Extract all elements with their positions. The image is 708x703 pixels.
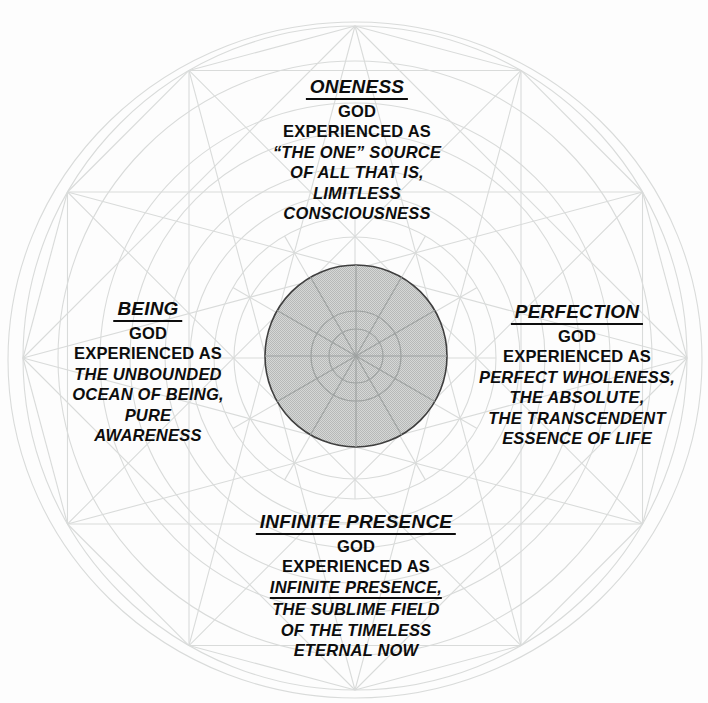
- label-line: INFINITE PRESENCE,: [256, 577, 456, 599]
- label-line: EXPERIENCED AS: [479, 346, 675, 366]
- disc-inner-geometry: [261, 261, 451, 451]
- being-text-block: BEING GOD EXPERIENCED AS THE UNBOUNDED O…: [72, 298, 224, 445]
- label-line: THE TRANSCENDENT: [479, 408, 675, 428]
- label-line: GOD: [273, 101, 441, 121]
- perfection-text-block: PERFECTION GOD EXPERIENCED AS PERFECT WH…: [479, 301, 675, 448]
- infinite-presence-title: INFINITE PRESENCE: [256, 511, 456, 535]
- label-line: OF THE TIMELESS: [256, 620, 456, 640]
- label-line: ESSENCE OF LIFE: [479, 428, 675, 448]
- oneness-title: ONENESS: [273, 76, 441, 100]
- underlined-label-line: INFINITE PRESENCE,: [270, 577, 442, 599]
- label-line: THE ABSOLUTE,: [479, 387, 675, 407]
- oneness-text-block: ONENESS GOD EXPERIENCED AS “THE ONE” SOU…: [273, 76, 441, 223]
- label-line: PERFECT WHOLENESS,: [479, 367, 675, 387]
- perfection-title-text: PERFECTION: [511, 301, 643, 325]
- label-line: THE UNBOUNDED: [72, 364, 224, 384]
- label-line: AWARENESS: [72, 425, 224, 445]
- label-line: GOD: [256, 536, 456, 556]
- label-line: EXPERIENCED AS: [72, 343, 224, 363]
- label-line: PURE: [72, 405, 224, 425]
- label-line: LIMITLESS: [273, 183, 441, 203]
- label-line: OF ALL THAT IS,: [273, 162, 441, 182]
- label-line: GOD: [72, 323, 224, 343]
- label-line: CONSCIOUSNESS: [273, 203, 441, 223]
- label-line: EXPERIENCED AS: [273, 121, 441, 141]
- diagram-stage: ONENESS GOD EXPERIENCED AS “THE ONE” SOU…: [0, 0, 708, 703]
- being-title: BEING: [72, 298, 224, 322]
- chord-line: [521, 70, 643, 192]
- label-line: THE SUBLIME FIELD: [256, 599, 456, 619]
- chord-line: [189, 26, 355, 70]
- chord-line: [23, 358, 67, 524]
- chord-line: [67, 524, 189, 646]
- label-line: “THE ONE” SOURCE: [273, 142, 441, 162]
- chord-line: [67, 70, 189, 192]
- perfection-title: PERFECTION: [479, 301, 675, 325]
- label-line: EXPERIENCED AS: [256, 556, 456, 576]
- label-line: GOD: [479, 326, 675, 346]
- oneness-title-text: ONENESS: [306, 76, 408, 100]
- label-line: ETERNAL NOW: [256, 640, 456, 660]
- label-line: OCEAN OF BEING,: [72, 384, 224, 404]
- chord-line: [23, 192, 67, 358]
- being-title-text: BEING: [113, 298, 182, 322]
- infinite-presence-text-block: INFINITE PRESENCE GOD EXPERIENCED AS INF…: [256, 511, 456, 660]
- infinite-presence-title-text: INFINITE PRESENCE: [256, 511, 456, 535]
- chord-line: [355, 26, 521, 70]
- chord-line: [521, 524, 643, 646]
